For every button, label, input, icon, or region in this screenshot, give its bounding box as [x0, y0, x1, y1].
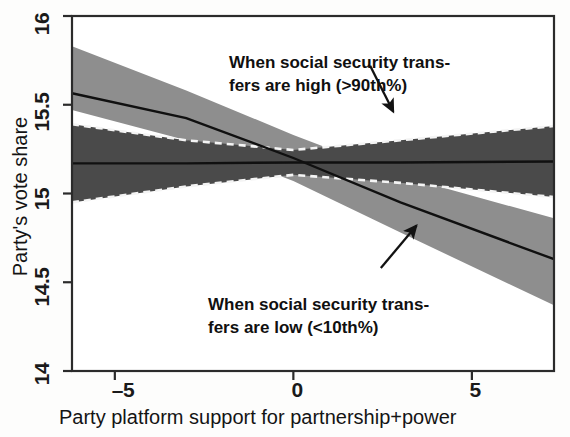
y-tick-label-14-5: 14.5 [30, 257, 54, 317]
annotation-high-transfers-line2: fers are high (>90th%) [229, 75, 407, 97]
annotation-low-transfers-line2: fers are low (<10th%) [208, 317, 379, 339]
annotation-high-transfers-line1: When social security trans- [229, 52, 450, 74]
y-axis-ticks [63, 16, 72, 371]
x-tick-label-5: 5 [452, 378, 498, 402]
y-tick-label-15-5: 15.5 [30, 82, 54, 142]
y-tick-label-16: 16 [30, 1, 54, 47]
y-tick-label-14: 14 [30, 351, 54, 397]
x-axis-title: Party platform support for partnership+p… [59, 406, 456, 429]
x-tick-label-minus-5: –5 [97, 378, 149, 402]
annotation-low-transfers-line1: When social security trans- [208, 294, 429, 316]
y-tick-label-15: 15 [30, 176, 54, 222]
chart-figure: 14 14.5 15 15.5 16 –5 0 5 Party's vote s… [0, 0, 570, 437]
x-tick-label-0: 0 [274, 378, 320, 402]
y-axis-title: Party's vote share [9, 72, 32, 322]
